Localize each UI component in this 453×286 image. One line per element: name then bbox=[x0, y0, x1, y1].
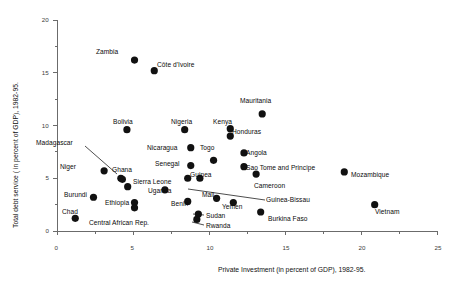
leader-line-guinea-bissau bbox=[188, 189, 265, 200]
point-label-nicaragua: Nicaragua bbox=[147, 144, 178, 151]
y-tick-label-5: 5 bbox=[45, 174, 48, 181]
point-label-central-african-rep-: Central African Rep. bbox=[89, 219, 149, 226]
data-point-mozambique[interactable] bbox=[341, 168, 348, 175]
point-label-yemen: Yemen bbox=[222, 203, 243, 210]
point-label-burkina-faso: Burkina Faso bbox=[268, 215, 307, 222]
point-label-sao-tome-and-principe: Sao Tome and Principe bbox=[246, 164, 315, 171]
point-label-burundi: Burundi bbox=[64, 191, 87, 198]
point-label-togo: Togo bbox=[200, 144, 215, 151]
point-label-ghana: Ghana bbox=[112, 166, 132, 173]
data-point-mauritania[interactable] bbox=[259, 110, 266, 117]
point-label-niger: Niger bbox=[60, 163, 76, 170]
point-label-guinea: Guinea bbox=[190, 171, 212, 178]
x-tick-label-15: 15 bbox=[283, 244, 290, 251]
point-label-mauritania: Mauritania bbox=[240, 97, 271, 104]
point-label-bolivia: Bolivia bbox=[113, 118, 133, 125]
y-axis-title: Total debt service ( in percent of GDP),… bbox=[12, 82, 19, 228]
x-tick-label-20: 20 bbox=[359, 244, 366, 251]
data-point-chad[interactable] bbox=[72, 215, 79, 222]
point-label-zambia: Zambia bbox=[96, 48, 118, 55]
data-point-ghana[interactable] bbox=[119, 176, 126, 183]
data-point-zambia[interactable] bbox=[131, 56, 138, 63]
data-point-sierra-leone[interactable] bbox=[124, 183, 131, 190]
y-tick-label-15: 15 bbox=[42, 69, 49, 76]
y-tick-label-20: 20 bbox=[42, 16, 49, 23]
x-tick-label-25: 25 bbox=[435, 244, 442, 251]
point-label-guinea-bissau: Guinea-Bissau bbox=[266, 196, 310, 203]
point-label-ethiopia: Ethiopia bbox=[105, 199, 129, 206]
x-tick-label-0: 0 bbox=[55, 244, 58, 251]
x-tick-label-5: 5 bbox=[131, 244, 134, 251]
data-point-togo[interactable] bbox=[210, 157, 217, 164]
data-point-niger[interactable] bbox=[101, 167, 108, 174]
y-tick-label-10: 10 bbox=[42, 122, 49, 129]
point-label-sudan: Sudan bbox=[206, 212, 225, 219]
point-label-c-te-d-ivoire: Côte d'Ivoire bbox=[157, 61, 194, 68]
data-point-senegal[interactable] bbox=[187, 162, 194, 169]
point-label-nigeria: Nigeria bbox=[171, 118, 192, 125]
point-label-madagascar: Madagascar bbox=[36, 139, 73, 146]
data-point-nicaragua[interactable] bbox=[187, 144, 194, 151]
point-label-mozambique: Mozambique bbox=[351, 171, 389, 178]
point-label-vietnam: Vietnam bbox=[375, 208, 399, 215]
data-point-burkina-faso[interactable] bbox=[257, 208, 264, 215]
point-label-angola: Angola bbox=[246, 149, 267, 156]
point-label-benin: Benin bbox=[171, 200, 188, 207]
x-axis-title: Private Investment (in percent of GDP), … bbox=[218, 266, 365, 273]
data-point-nigeria[interactable] bbox=[181, 126, 188, 133]
data-point-burundi[interactable] bbox=[90, 194, 97, 201]
point-label-sierra-leone: Sierra Leone bbox=[133, 178, 171, 185]
point-label-chad: Chad bbox=[62, 208, 78, 215]
leader-lines-group bbox=[85, 146, 265, 225]
point-label-honduras: Honduras bbox=[232, 128, 261, 135]
point-label-cameroon: Cameroon bbox=[254, 182, 285, 189]
x-tick-label-10: 10 bbox=[207, 244, 214, 251]
data-point-bolivia[interactable] bbox=[123, 126, 130, 133]
point-label-senegal: Senegal bbox=[155, 160, 180, 167]
y-tick-label-0: 0 bbox=[45, 227, 48, 234]
point-label-kenya: Kenya bbox=[213, 118, 232, 125]
point-label-uganda: Uganda bbox=[148, 187, 171, 194]
point-label-rwanda: Rwanda bbox=[206, 222, 231, 229]
data-point-central-african-rep-[interactable] bbox=[131, 204, 138, 211]
data-point-rwanda[interactable] bbox=[193, 216, 200, 223]
scatter-chart-figure: ZambiaCôte d'IvoireMauritaniaBoliviaNige… bbox=[0, 0, 453, 286]
point-label-mali: Mali bbox=[202, 191, 214, 198]
data-point-cameroon[interactable] bbox=[253, 170, 260, 177]
